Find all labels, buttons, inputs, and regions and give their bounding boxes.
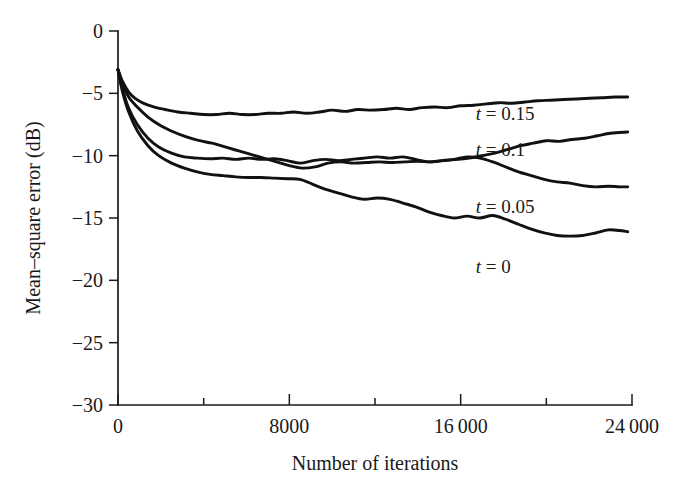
y-tick-label: −15 <box>72 207 103 229</box>
series-label-equals: = <box>481 196 501 217</box>
x-axis-title: Number of iterations <box>292 452 459 474</box>
series-label-value: 0 <box>501 256 511 277</box>
chart-page: 0−5−10−15−20−25−30 0800016 00024 000 t =… <box>0 0 695 497</box>
mean-square-error-chart: 0−5−10−15−20−25−30 0800016 00024 000 t =… <box>0 0 695 497</box>
y-tick-label: −10 <box>72 145 103 167</box>
y-axis-title: Mean–square error (dB) <box>22 121 45 314</box>
series-inline-label: t = 0 <box>476 256 511 277</box>
series-inline-label: t = 0.15 <box>476 103 535 124</box>
series-label-value: 0.05 <box>501 196 534 217</box>
data-curves <box>118 70 628 236</box>
y-tick-label: 0 <box>93 20 103 42</box>
series-label-value: 0.1 <box>501 139 525 160</box>
series-label-equals: = <box>481 103 501 124</box>
series-labels: t = 0.15t = 0.1t = 0.05t = 0 <box>476 103 535 277</box>
series-inline-label: t = 0.1 <box>476 139 525 160</box>
series-label-value: 0.15 <box>501 103 534 124</box>
y-tick-label: −30 <box>72 394 103 416</box>
series-curve <box>118 70 628 115</box>
y-axis-ticks: 0−5−10−15−20−25−30 <box>72 20 118 416</box>
axes-group <box>118 31 632 405</box>
x-tick-label: 8000 <box>269 415 309 437</box>
series-curve <box>118 70 628 187</box>
y-tick-label: −25 <box>72 332 103 354</box>
x-tick-label: 0 <box>113 415 123 437</box>
series-curve <box>118 70 628 236</box>
x-tick-label: 24 000 <box>605 415 659 437</box>
series-curve <box>118 70 628 169</box>
series-inline-label: t = 0.05 <box>476 196 535 217</box>
x-tick-label: 16 000 <box>434 415 488 437</box>
x-axis-ticks: 0800016 00024 000 <box>113 394 659 437</box>
series-label-equals: = <box>481 256 501 277</box>
series-label-equals: = <box>481 139 501 160</box>
y-tick-label: −5 <box>82 82 103 104</box>
y-tick-label: −20 <box>72 269 103 291</box>
